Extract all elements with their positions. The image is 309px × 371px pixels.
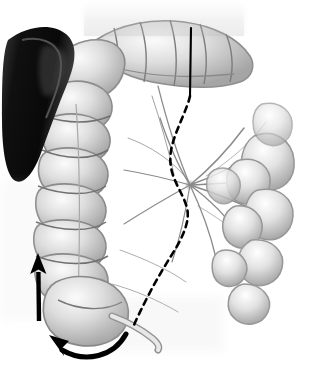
resection-line-solid [190,28,191,96]
colon-anatomy-figure [0,0,309,371]
mesenteric-root [186,181,194,189]
top-fade [0,0,309,22]
illustration-canvas [0,0,309,371]
